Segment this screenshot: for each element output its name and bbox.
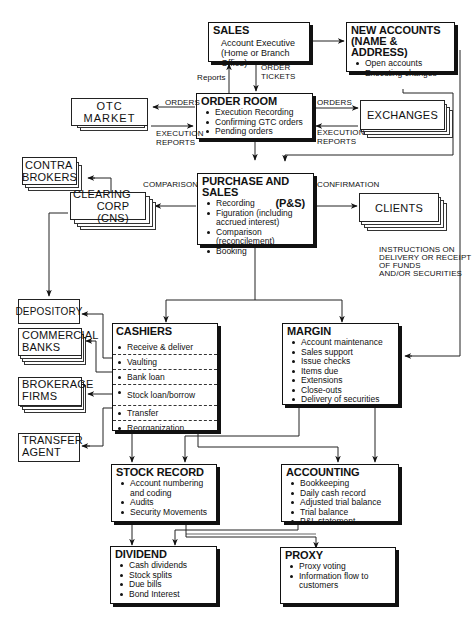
depository-label: DEPOSITORY bbox=[15, 306, 82, 318]
order-tickets-label-2: TICKETS bbox=[261, 73, 295, 82]
execution-reports-right-label-2: REPORTS bbox=[317, 138, 356, 147]
clients-label: CLIENTS bbox=[375, 202, 423, 214]
contra-brokers-label-2: BROKERS bbox=[22, 171, 77, 183]
cashiers-row: Vaulting bbox=[113, 354, 217, 369]
cashiers-row: Reorganization bbox=[113, 420, 217, 435]
list-item: Security Movements bbox=[116, 508, 212, 518]
order-room-title: ORDER ROOM bbox=[201, 96, 308, 107]
otc-market-box: OTC MARKET bbox=[71, 98, 148, 126]
list-item: P&L statement bbox=[286, 517, 394, 527]
clients-box: CLIENTS bbox=[359, 193, 439, 222]
orders-right-label: ORDERS bbox=[317, 99, 352, 108]
stock-record-items: Account numbering and coding Audits Secu… bbox=[116, 479, 212, 517]
stock-record-title: STOCK RECORD bbox=[116, 467, 212, 478]
exchanges-label: EXCHANGES bbox=[367, 109, 438, 121]
confirmation-label: CONFIRMATION bbox=[317, 181, 379, 190]
margin-title: MARGIN bbox=[287, 326, 394, 337]
exchanges-box: EXCHANGES bbox=[360, 100, 445, 130]
clearing-corp-label-1: CLEARING bbox=[71, 188, 131, 200]
new-accounts-items: Open accounts Executing changes bbox=[351, 59, 450, 78]
instructions-label-4: AND/OR SECURITIES bbox=[379, 270, 462, 279]
comparisons-label: COMPARISONS bbox=[143, 181, 204, 190]
accounting-items: Bookkeeping Daily cash record Adjusted t… bbox=[286, 479, 394, 527]
cashiers-title: CASHIERS bbox=[113, 326, 217, 340]
operations-flow-diagram: SALES Account Executive (Home or Branch … bbox=[0, 0, 476, 621]
commercial-banks-label-2: BANKS bbox=[22, 341, 60, 353]
cashiers-box: CASHIERS Receive & deliver Vaulting Bank… bbox=[112, 323, 218, 431]
stock-record-box: STOCK RECORD Account numbering and codin… bbox=[111, 464, 217, 522]
brokerage-firms-box: BROKERAGE FIRMS bbox=[18, 377, 82, 406]
list-item: Delivery of securities bbox=[287, 395, 394, 405]
orders-left-label: ORDERS bbox=[165, 99, 200, 108]
depository-box: DEPOSITORY bbox=[18, 299, 80, 324]
sales-subtitle-line-1: Account Executive bbox=[221, 38, 305, 48]
transfer-agent-box: TRANSFER AGENT bbox=[18, 433, 80, 462]
dividend-items: Cash dividends Stock splits Due bills Bo… bbox=[115, 561, 212, 599]
clearing-corp-label-2: CORP (CNS) bbox=[71, 200, 145, 224]
purchase-and-sales-box: PURCHASE AND SALES (P&S) Recording Figur… bbox=[197, 173, 314, 245]
commercial-banks-box: COMMERCIAL BANKS bbox=[18, 328, 82, 356]
dividend-box: DIVIDEND Cash dividends Stock splits Due… bbox=[110, 546, 217, 604]
new-accounts-box: NEW ACCOUNTS (NAME & ADDRESS) Open accou… bbox=[346, 22, 455, 72]
otc-market-label: OTC MARKET bbox=[72, 100, 147, 124]
transfer-agent-label-1: TRANSFER bbox=[22, 434, 83, 446]
brokerage-firms-label-2: FIRMS bbox=[22, 390, 57, 402]
cashiers-row: Receive & deliver bbox=[113, 340, 217, 354]
cashiers-row: Stock loan/borrow bbox=[113, 384, 217, 405]
order-room-items: Execution Recording Confirming GTC order… bbox=[201, 108, 308, 137]
transfer-agent-label-2: AGENT bbox=[22, 446, 61, 458]
dividend-title: DIVIDEND bbox=[115, 549, 212, 560]
brokerage-firms-label-1: BROKERAGE bbox=[22, 378, 94, 390]
list-item-continuation: customers bbox=[285, 581, 391, 591]
reports-label: Reports bbox=[197, 74, 226, 83]
cashiers-row: Transfer bbox=[113, 405, 217, 420]
list-item: Booking bbox=[202, 247, 309, 257]
accounting-title: ACCOUNTING bbox=[286, 467, 394, 478]
purchase-and-sales-items: Recording Figuration (including accrued … bbox=[202, 199, 309, 256]
order-room-box: ORDER ROOM Execution Recording Confirmin… bbox=[196, 93, 313, 139]
execution-reports-left-label-2: REPORTS bbox=[156, 139, 195, 148]
sales-title: SALES bbox=[213, 25, 305, 36]
proxy-title: PROXY bbox=[285, 550, 391, 561]
sales-box: SALES Account Executive (Home or Branch … bbox=[208, 22, 310, 62]
contra-brokers-box: CONTRA BROKERS bbox=[22, 157, 77, 185]
clearing-corp-box: CLEARING CORP (CNS) bbox=[70, 192, 146, 220]
proxy-items: Proxy voting Information flow to custome… bbox=[285, 562, 391, 591]
accounting-box: ACCOUNTING Bookkeeping Daily cash record… bbox=[281, 464, 399, 522]
margin-box: MARGIN Account maintenance Sales support… bbox=[282, 323, 399, 405]
list-item: Comparison (reconcilement) bbox=[202, 228, 309, 247]
list-item: Bond Interest bbox=[115, 590, 212, 600]
margin-items: Account maintenance Sales support Issue … bbox=[287, 338, 394, 405]
list-item: Pending orders bbox=[201, 127, 308, 137]
new-accounts-title-line-2: (NAME & ADDRESS) bbox=[351, 36, 450, 58]
contra-brokers-label-1: CONTRA bbox=[23, 159, 73, 171]
purchase-and-sales-title: PURCHASE AND SALES bbox=[202, 176, 309, 198]
commercial-banks-label-1: COMMERCIAL bbox=[22, 329, 99, 341]
proxy-box: PROXY Proxy voting Information flow to c… bbox=[280, 547, 396, 604]
list-item: Executing changes bbox=[351, 69, 450, 79]
cashiers-row: Bank loan bbox=[113, 369, 217, 384]
